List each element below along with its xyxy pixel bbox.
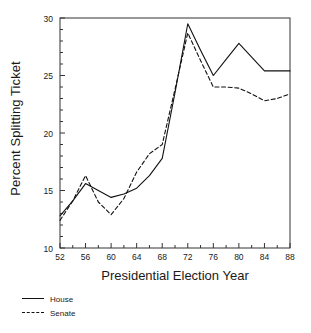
y-axis-tick-label: 10 (44, 244, 54, 254)
legend-item-senate: Senate (22, 306, 172, 320)
y-axis-tick-label: 30 (44, 14, 54, 24)
legend-line-dashed-icon (22, 308, 44, 318)
series-line-house (60, 24, 290, 216)
x-axis-title: Presidential Election Year (60, 268, 290, 283)
y-axis-tick-label: 15 (44, 186, 54, 196)
x-axis-tick-label: 88 (285, 252, 295, 262)
y-axis-tick-label: 20 (44, 129, 54, 139)
x-axis-tick-label: 84 (260, 252, 270, 262)
chart-legend: House Senate (22, 292, 172, 320)
legend-item-house: House (22, 292, 172, 306)
plot-area: 101520253052566064687276808488 (0, 0, 311, 268)
x-axis-tick-label: 56 (81, 252, 91, 262)
x-axis-tick-label: 76 (209, 252, 219, 262)
chart-figure: Percent Splitting Ticket 101520253052566… (0, 0, 311, 333)
x-axis-tick-label: 60 (106, 252, 116, 262)
y-axis-tick-label: 25 (44, 71, 54, 81)
legend-label-senate: Senate (50, 309, 75, 318)
x-axis-tick-label: 72 (183, 252, 193, 262)
x-axis-tick-label: 68 (157, 252, 167, 262)
x-axis-tick-label: 64 (132, 252, 142, 262)
x-axis-tick-label: 80 (234, 252, 244, 262)
plot-frame (60, 18, 290, 248)
legend-label-house: House (50, 295, 73, 304)
legend-line-solid-icon (22, 294, 44, 304)
x-axis-tick-label: 52 (55, 252, 65, 262)
